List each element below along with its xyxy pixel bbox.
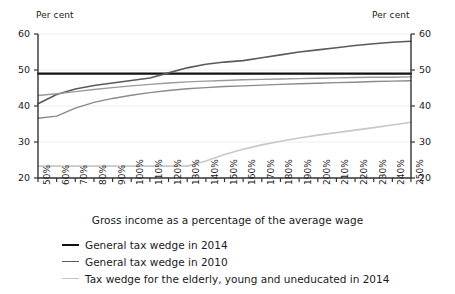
- x-axis-tick-label: 240%: [396, 159, 406, 185]
- x-axis-tick-label: 60%: [61, 165, 71, 185]
- x-axis-tick-label: 90%: [117, 165, 127, 185]
- x-axis-tick-label: 170%: [266, 159, 276, 185]
- legend-line-swatch-icon: [62, 261, 79, 262]
- y-axis-left-tick-label: 20: [12, 172, 30, 183]
- x-axis-tick-label: 200%: [322, 159, 332, 185]
- x-axis-tick-label: 230%: [378, 159, 388, 185]
- y-axis-right-tick-label: 40: [419, 100, 437, 111]
- x-axis-tick-label: 80%: [98, 165, 108, 185]
- x-axis-tick-label: 190%: [303, 159, 313, 185]
- chart-legend: General tax wedge in 2014General tax wed…: [62, 236, 455, 287]
- y-axis-left-tick-label: 60: [12, 28, 30, 39]
- y-axis-left-tick-label: 50: [12, 64, 30, 75]
- y-axis-right-tick-label: 30: [419, 136, 437, 147]
- x-axis-tick-label: 70%: [79, 165, 89, 185]
- y-axis-left-tick-label: 40: [12, 100, 30, 111]
- x-axis-tick-label: 250%: [415, 159, 425, 185]
- x-axis-tick-label: 160%: [247, 159, 257, 185]
- legend-item-label: General tax wedge in 2010: [85, 256, 228, 268]
- x-axis-tick-label: 150%: [229, 159, 239, 185]
- tax-wedge-line-chart: Per cent Per cent 2030405060 2030405060 …: [0, 0, 455, 294]
- x-axis-tick-label: 100%: [135, 159, 145, 185]
- x-axis-tick-label: 140%: [210, 159, 220, 185]
- legend-item-label: General tax wedge in 2014: [85, 239, 228, 251]
- x-axis-tick-label: 210%: [340, 159, 350, 185]
- x-axis-tick-label: 50%: [42, 165, 52, 185]
- legend-item[interactable]: Tax wedge for the elderly, young and une…: [62, 270, 455, 287]
- x-axis-title: Gross income as a percentage of the aver…: [0, 214, 455, 226]
- y-axis-right-tick-label: 60: [419, 28, 437, 39]
- x-axis-tick-label: 220%: [359, 159, 369, 185]
- legend-line-swatch-icon: [62, 278, 79, 279]
- legend-line-swatch-icon: [62, 244, 79, 246]
- y-axis-right-tick-label: 50: [419, 64, 437, 75]
- legend-item[interactable]: General tax wedge in 2010: [62, 253, 455, 270]
- x-axis-tick-label: 130%: [191, 159, 201, 185]
- x-axis-tick-label: 110%: [154, 159, 164, 185]
- legend-item[interactable]: General tax wedge in 2014: [62, 236, 455, 253]
- x-axis-tick-label: 120%: [173, 159, 183, 185]
- legend-item-label: Tax wedge for the elderly, young and une…: [85, 273, 389, 285]
- x-axis-tick-label: 180%: [284, 159, 294, 185]
- y-axis-left-tick-label: 30: [12, 136, 30, 147]
